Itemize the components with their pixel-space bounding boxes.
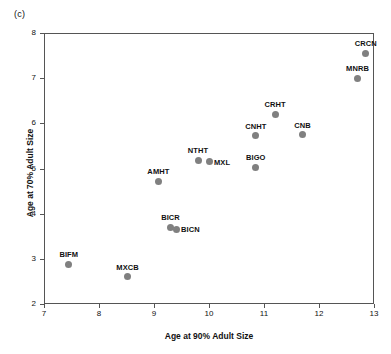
- data-point-label: BICN: [181, 225, 200, 234]
- y-axis-title: Age at 70% Adult Size: [25, 83, 35, 263]
- y-tick: [40, 214, 44, 215]
- x-tick: [99, 304, 100, 308]
- data-point: [195, 157, 202, 164]
- data-point: [252, 164, 259, 171]
- y-tick: [40, 259, 44, 260]
- x-tick: [209, 304, 210, 308]
- y-tick-label: 7: [18, 73, 36, 82]
- data-point-label: MXCB: [116, 263, 138, 272]
- data-point: [206, 158, 213, 165]
- x-tick: [319, 304, 320, 308]
- y-tick-label: 5: [18, 164, 36, 173]
- x-tick-label: 8: [87, 309, 111, 318]
- y-tick: [40, 123, 44, 124]
- x-tick-label: 10: [197, 309, 221, 318]
- x-tick-label: 12: [307, 309, 331, 318]
- x-tick: [374, 304, 375, 308]
- y-tick: [40, 304, 44, 305]
- y-tick-label: 2: [18, 299, 36, 308]
- data-point-label: CRCN: [355, 39, 377, 48]
- x-tick: [154, 304, 155, 308]
- data-point: [354, 75, 361, 82]
- y-tick-label: 8: [18, 28, 36, 37]
- data-point-label: AMHT: [147, 167, 169, 176]
- data-point-label: BIFM: [59, 250, 78, 259]
- data-point-label: CRHT: [264, 100, 285, 109]
- y-tick: [40, 33, 44, 34]
- x-tick-label: 11: [252, 309, 276, 318]
- data-point-label: MXL: [214, 157, 230, 166]
- scatter-plot-figure: (c) Age at 90% Adult Size Age at 70% Adu…: [0, 0, 391, 354]
- x-tick: [44, 304, 45, 308]
- data-point-label: BIGO: [246, 153, 266, 162]
- panel-label: (c): [14, 9, 25, 19]
- data-point-label: MNRB: [346, 64, 369, 73]
- data-point: [65, 261, 72, 268]
- x-tick-label: 13: [362, 309, 386, 318]
- x-tick-label: 7: [32, 309, 56, 318]
- y-tick-label: 6: [18, 118, 36, 127]
- x-tick: [264, 304, 265, 308]
- y-tick-label: 3: [18, 254, 36, 263]
- data-point: [155, 178, 162, 185]
- y-tick: [40, 78, 44, 79]
- data-point: [173, 226, 180, 233]
- x-axis-title: Age at 90% Adult Size: [44, 331, 374, 341]
- data-point-label: CNB: [294, 121, 311, 130]
- data-point-label: CNHT: [245, 122, 266, 131]
- data-point-label: NTHT: [188, 146, 208, 155]
- data-point: [272, 111, 279, 118]
- y-tick-label: 4: [18, 209, 36, 218]
- x-tick-label: 9: [142, 309, 166, 318]
- y-tick: [40, 169, 44, 170]
- data-point-label: BICR: [161, 213, 180, 222]
- plot-area: [44, 33, 374, 304]
